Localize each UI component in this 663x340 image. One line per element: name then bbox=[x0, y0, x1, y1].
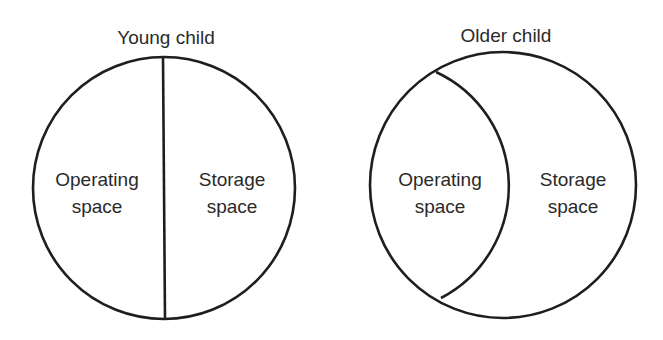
operating-label-line1: Operating bbox=[55, 169, 138, 190]
young-child-divider-line bbox=[163, 57, 165, 319]
older-child-storage-space-label: Storage space bbox=[540, 169, 607, 217]
storage-label-line2: space bbox=[548, 196, 599, 217]
storage-label-line2: space bbox=[207, 196, 258, 217]
older-child-panel: Older child Operating space Storage spac… bbox=[370, 25, 636, 318]
young-child-storage-space-label: Storage space bbox=[199, 169, 266, 217]
young-child-title: Young child bbox=[117, 27, 215, 48]
operating-label-line2: space bbox=[72, 196, 123, 217]
operating-label-line2: space bbox=[415, 196, 466, 217]
operating-label-line1: Operating bbox=[398, 169, 481, 190]
older-child-title: Older child bbox=[461, 25, 552, 46]
storage-label-line1: Storage bbox=[540, 169, 607, 190]
older-child-operating-space-label: Operating space bbox=[398, 169, 481, 217]
young-child-operating-space-label: Operating space bbox=[55, 169, 138, 217]
storage-label-line1: Storage bbox=[199, 169, 266, 190]
young-child-panel: Young child Operating space Storage spac… bbox=[33, 27, 295, 319]
memory-space-diagram: Young child Operating space Storage spac… bbox=[0, 0, 663, 340]
